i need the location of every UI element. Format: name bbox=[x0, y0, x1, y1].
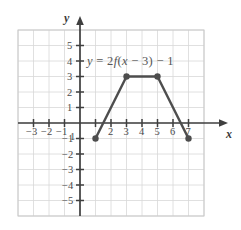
equation-equals: = bbox=[96, 54, 103, 68]
y-tick-label--2: −2 bbox=[62, 150, 73, 161]
vertex-dot bbox=[123, 73, 129, 79]
y-axis-label: y bbox=[64, 12, 69, 24]
x-axis-label: x bbox=[226, 128, 232, 140]
y-tick-label--5: −5 bbox=[62, 196, 73, 207]
x-tick-label-5: 5 bbox=[155, 127, 160, 138]
y-tick-label--1: −1 bbox=[62, 134, 73, 145]
y-tick-label-5: 5 bbox=[67, 41, 72, 52]
equation-minus-second: − bbox=[156, 54, 163, 68]
equation-constant: 1 bbox=[167, 54, 174, 68]
y-tick-label-4: 4 bbox=[67, 57, 72, 68]
equation-annotation: y = 2f(x − 3) − 1 bbox=[87, 55, 174, 68]
x-tick-label-6: 6 bbox=[170, 127, 175, 138]
x-tick-label-4: 4 bbox=[139, 127, 144, 138]
x-tick-label-7: 7 bbox=[186, 127, 191, 138]
x-tick-label--2: −2 bbox=[41, 127, 52, 138]
y-tick-label--4: −4 bbox=[62, 181, 73, 192]
coordinate-plane bbox=[0, 0, 241, 230]
x-tick-label-3: 3 bbox=[124, 127, 129, 138]
x-tick-label-2: 2 bbox=[108, 127, 113, 138]
vertex-dot bbox=[92, 135, 98, 141]
equation-minus-first: − bbox=[131, 54, 138, 68]
y-tick-label-3: 3 bbox=[67, 72, 72, 83]
graph-figure: y x y = 2f(x − 3) − 1 −3 −2 −1 1 2 3 4 5… bbox=[0, 0, 241, 230]
y-tick-label-2: 2 bbox=[67, 88, 72, 99]
y-tick-label--3: −3 bbox=[62, 165, 73, 176]
x-tick-label--3: −3 bbox=[26, 127, 37, 138]
vertex-dot bbox=[154, 73, 160, 79]
y-tick-label-1: 1 bbox=[67, 103, 72, 114]
